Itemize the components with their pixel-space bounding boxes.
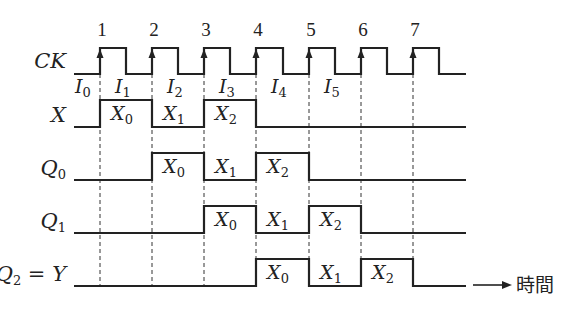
segment-label-subscript: 2: [281, 165, 289, 180]
input-interval-label-subscript: 4: [279, 85, 287, 100]
signal-label-ck: CK: [34, 49, 67, 73]
signal-label-q0-base: Q: [41, 156, 58, 180]
segment-label-base: X: [265, 208, 282, 230]
rising-edge-arrow-icon: [253, 49, 260, 58]
waveform-ck: [74, 48, 466, 74]
signal-label-q0-subscript: 0: [58, 167, 66, 182]
edge-number: 1: [97, 19, 107, 40]
input-interval-label-subscript: 5: [332, 85, 340, 100]
timing-diagram: CKXX0X1X2Q0X0X1X2Q1X0X1X2Q2 = YX0X1X2123…: [0, 0, 571, 318]
segment-label: X2: [265, 155, 289, 180]
segment-label-base: X: [213, 155, 230, 177]
rising-edge-arrow-icon: [410, 49, 417, 58]
segment-label-base: X: [370, 261, 387, 283]
segment-label: X1: [161, 102, 185, 127]
signal-label-q1: Q1: [41, 209, 67, 235]
signal-label-q2-subscript: 2: [13, 273, 21, 288]
segment-label-base: X: [161, 155, 178, 177]
signal-label-q2-base: Q: [0, 262, 13, 286]
rising-edge-arrow-icon: [358, 49, 365, 58]
segment-label-base: X: [318, 261, 335, 283]
labels: CKXX0X1X2Q0X0X1X2Q1X0X1X2Q2 = YX0X1X2123…: [0, 19, 420, 288]
input-interval-label-subscript: 3: [227, 85, 235, 100]
rising-edge-arrow-icon: [306, 49, 313, 58]
segment-label-subscript: 1: [229, 165, 237, 180]
signal-label-q0: Q0: [41, 156, 67, 182]
rising-edge-arrow-icon: [97, 49, 104, 58]
segment-label-subscript: 2: [334, 218, 342, 233]
input-interval-label: I2: [166, 75, 183, 100]
segment-label: X1: [213, 155, 237, 180]
segment-label-base: X: [213, 102, 230, 124]
segment-label-subscript: 1: [334, 271, 342, 286]
signal-label-x: X: [49, 103, 67, 127]
input-interval-label: I1: [114, 75, 131, 100]
segment-label: X1: [265, 208, 289, 233]
time-axis: 時間: [473, 274, 554, 296]
signal-label-ck-base: CK: [34, 49, 67, 73]
edge-number: 7: [410, 19, 420, 40]
segment-label-subscript: 0: [177, 165, 185, 180]
signal-label-q2: Q2 = Y: [0, 262, 68, 288]
segment-label-subscript: 2: [386, 271, 394, 286]
segment-label-subscript: 1: [281, 218, 289, 233]
input-interval-label-subscript: 1: [123, 85, 131, 100]
segment-label-base: X: [265, 261, 282, 283]
segment-label: X0: [161, 155, 185, 180]
edge-number: 2: [149, 19, 159, 40]
segment-label: X0: [109, 102, 133, 127]
signal-label-x-base: X: [49, 103, 67, 127]
segment-label: X1: [318, 261, 342, 286]
segment-label-base: X: [265, 155, 282, 177]
segment-label-base: X: [109, 102, 126, 124]
rising-edge-arrow-icon: [149, 49, 156, 58]
edge-number: 4: [253, 19, 263, 40]
edge-number: 6: [358, 19, 368, 40]
edge-number: 3: [201, 19, 211, 40]
time-arrow-head-icon: [502, 281, 512, 289]
input-interval-label-subscript: 2: [175, 85, 183, 100]
segment-label-base: X: [161, 102, 178, 124]
segment-label-subscript: 0: [281, 271, 289, 286]
input-interval-label: I3: [218, 75, 235, 100]
rising-edge-arrow-icon: [201, 49, 208, 58]
segment-label: X0: [213, 208, 237, 233]
segment-label-base: X: [213, 208, 230, 230]
segment-label-subscript: 2: [229, 112, 237, 127]
segment-label-base: X: [318, 208, 335, 230]
segment-label-subscript: 0: [229, 218, 237, 233]
signal-label-q1-base: Q: [41, 209, 58, 233]
signal-label-q2-suffix: = Y: [21, 262, 68, 286]
segment-label: X2: [213, 102, 237, 127]
time-axis-label: 時間: [516, 274, 554, 296]
input-interval-label: I5: [323, 75, 340, 100]
segment-label: X2: [370, 261, 394, 286]
segment-label-subscript: 1: [177, 112, 185, 127]
segment-label-subscript: 0: [125, 112, 133, 127]
edge-number: 5: [306, 19, 316, 40]
signal-label-q1-subscript: 1: [58, 220, 66, 235]
input-interval-label: I4: [270, 75, 287, 100]
segment-label: X2: [318, 208, 342, 233]
segment-label: X0: [265, 261, 289, 286]
input-interval-label: I0: [74, 75, 91, 100]
input-interval-label-subscript: 0: [83, 85, 91, 100]
